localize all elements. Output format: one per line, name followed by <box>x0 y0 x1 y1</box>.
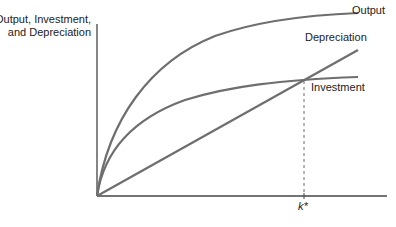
output-label: Output <box>352 4 385 17</box>
y-axis-label-line2: and Depreciation <box>0 26 91 39</box>
y-axis-label: Output, Investment, and Depreciation <box>0 13 91 39</box>
depreciation-label: Depreciation <box>305 31 367 44</box>
investment-label: Investment <box>311 81 365 94</box>
kstar-label: k* <box>298 200 308 213</box>
investment-curve <box>97 77 358 196</box>
y-axis-label-line1: Output, Investment, <box>0 13 91 26</box>
depreciation-line <box>97 50 358 196</box>
